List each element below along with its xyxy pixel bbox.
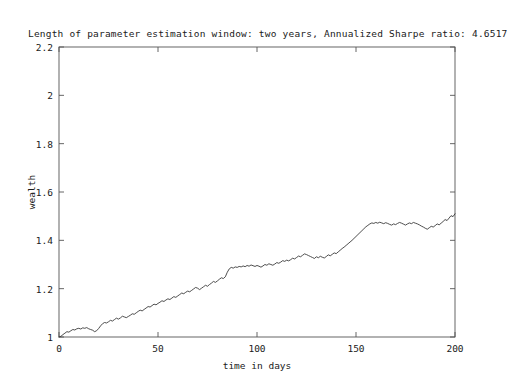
axis-ticks: [59, 47, 455, 337]
x-tick-label: 150: [347, 343, 364, 354]
x-tick-label: 200: [446, 343, 463, 354]
y-tick-label: 1.8: [8, 138, 53, 149]
y-tick-label: 1.6: [8, 187, 53, 198]
x-tick-label: 50: [152, 343, 163, 354]
plot-box: [59, 47, 455, 337]
y-tick-label: 1.2: [8, 283, 53, 294]
y-tick-label: 2: [8, 90, 53, 101]
y-tick-label: 1: [8, 332, 53, 343]
y-tick-label: 2.2: [8, 42, 53, 53]
y-tick-label: 1.4: [8, 235, 53, 246]
wealth-line: [59, 214, 455, 337]
x-tick-label: 0: [56, 343, 62, 354]
x-tick-label: 100: [248, 343, 265, 354]
axes-frame: [59, 47, 455, 337]
